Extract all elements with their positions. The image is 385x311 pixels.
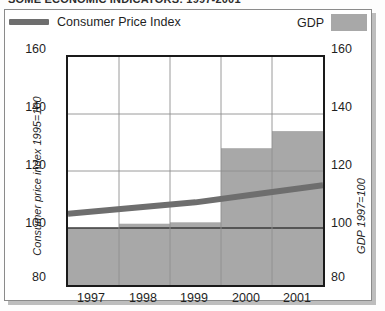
chart-title-cropped: SOME ECONOMIC INDICATORS: 1997-2001 <box>0 0 385 9</box>
legend-label-cpi: Consumer Price Index <box>57 15 181 29</box>
chart-legend: Consumer Price Index GDP <box>5 11 373 37</box>
x-axis-tick-1999: 1999 <box>168 291 220 305</box>
x-axis-tick-1997: 1997 <box>65 291 117 305</box>
x-axis-tick-2001: 2001 <box>271 291 323 305</box>
y-axis-tick-left-80: 80 <box>6 271 46 284</box>
y-axis-tick-right-120: 120 <box>331 159 371 172</box>
gdp-bar-1999 <box>170 222 221 285</box>
chart-panel: Consumer Price Index GDP Consumer price … <box>4 9 372 301</box>
y-axis-tick-left-100: 100 <box>6 217 46 230</box>
legend-bar-swatch-icon <box>331 14 367 31</box>
chart-title-text: SOME ECONOMIC INDICATORS: 1997-2001 <box>8 0 241 5</box>
chart-figure: SOME ECONOMIC INDICATORS: 1997-2001 Cons… <box>0 0 385 311</box>
y-axis-tick-right-160: 160 <box>331 43 371 56</box>
plot-svg <box>68 57 323 285</box>
y-axis-tick-right-80: 80 <box>331 271 371 284</box>
y-axis-tick-left-120: 120 <box>6 159 46 172</box>
gdp-bar-2000 <box>221 148 272 285</box>
plot-area <box>66 55 325 287</box>
x-axis-tick-1998: 1998 <box>117 291 169 305</box>
legend-item-gdp: GDP <box>297 14 367 31</box>
legend-item-cpi: Consumer Price Index <box>9 15 181 29</box>
legend-line-swatch-icon <box>9 19 49 25</box>
gdp-bar-1997 <box>68 228 119 285</box>
y-axis-tick-left-160: 160 <box>6 43 46 56</box>
y-axis-tick-left-140: 140 <box>6 101 46 114</box>
legend-label-gdp: GDP <box>297 16 324 30</box>
y-axis-tick-right-140: 140 <box>331 101 371 114</box>
x-axis-tick-2000: 2000 <box>220 291 272 305</box>
gdp-bar-1998 <box>119 224 170 285</box>
y-axis-tick-right-100: 100 <box>331 217 371 230</box>
panel-shadow-right <box>372 13 376 301</box>
gdp-bar-2001 <box>272 131 323 285</box>
